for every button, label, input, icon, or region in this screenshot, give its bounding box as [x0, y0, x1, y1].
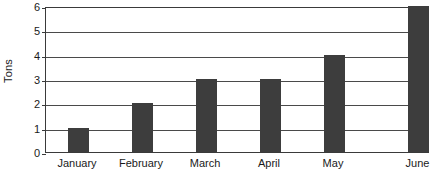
x-tick-label: January — [57, 156, 96, 170]
y-tick-label: 2 — [22, 99, 40, 110]
x-tick-label: April — [258, 156, 280, 170]
y-tick-mark — [42, 154, 46, 155]
plot-area — [45, 7, 429, 153]
bars-layer — [46, 8, 428, 152]
y-tick-label: 5 — [22, 26, 40, 37]
x-axis-tick-labels: JanuaryFebruaryMarchAprilMayJune — [45, 156, 429, 176]
y-tick-label: 3 — [22, 75, 40, 86]
chart-title-cropped — [0, 0, 431, 3]
y-axis-title: Tons — [2, 43, 16, 99]
y-axis-tick-labels: 0123456 — [22, 0, 40, 178]
y-tick-label: 6 — [22, 2, 40, 13]
bar-chart: Tons 0123456 JanuaryFebruaryMarchAprilMa… — [0, 0, 431, 178]
bar — [324, 55, 345, 152]
x-tick-label: May — [323, 156, 344, 170]
bar — [132, 103, 153, 152]
x-tick-label: March — [190, 156, 221, 170]
bar — [196, 79, 217, 152]
bar — [68, 128, 89, 152]
bar — [260, 79, 281, 152]
x-tick-label: February — [119, 156, 163, 170]
y-tick-label: 4 — [22, 50, 40, 61]
y-tick-label: 1 — [22, 123, 40, 134]
x-tick-label: June — [406, 156, 430, 170]
bar — [408, 6, 429, 152]
y-tick-label: 0 — [22, 148, 40, 159]
